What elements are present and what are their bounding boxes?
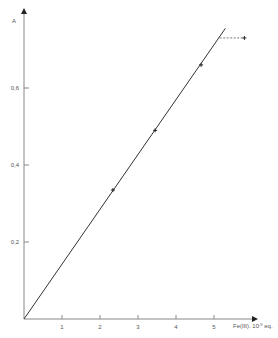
axes: [21, 8, 258, 322]
x-axis-label: Fe(III). 10-9 eq.: [233, 322, 273, 330]
x-axis-arrow-icon: [252, 316, 258, 322]
series: [24, 28, 246, 319]
x-tick-label: 5: [212, 324, 216, 330]
absorbance-chart: 123450,20,40,6AFe(III). 10-9 eq.: [0, 0, 278, 338]
y-axis-arrow-icon: [21, 8, 27, 14]
x-tick-label: 2: [98, 324, 102, 330]
y-tick-label: 0,2: [11, 239, 20, 245]
x-tick-label: 1: [60, 324, 64, 330]
y-tick-label: 0,4: [11, 162, 20, 168]
y-tick-label: 0,6: [11, 85, 20, 91]
x-tick-label: 4: [174, 324, 178, 330]
y-axis-label: A: [12, 18, 16, 24]
labels: 123450,20,40,6AFe(III). 10-9 eq.: [11, 18, 273, 330]
x-tick-label: 3: [136, 324, 140, 330]
calibration-line: [24, 28, 225, 319]
